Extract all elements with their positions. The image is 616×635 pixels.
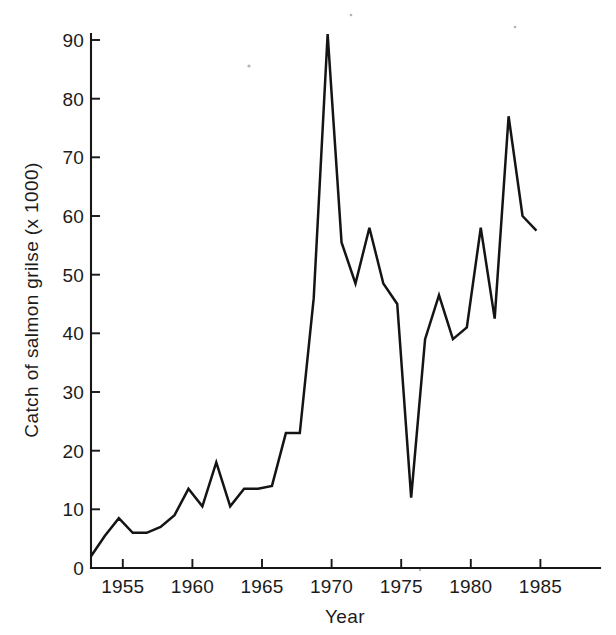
y-tick-label-20: 20 bbox=[62, 441, 84, 462]
x-axis-title: Year bbox=[325, 606, 365, 627]
y-axis: 0 10 20 30 40 50 60 70 80 90 Catch of sa… bbox=[21, 30, 100, 579]
y-tick-label-10: 10 bbox=[62, 499, 84, 520]
y-tick-label-90: 90 bbox=[62, 30, 84, 51]
chart-figure: 0 10 20 30 40 50 60 70 80 90 Catch of sa… bbox=[0, 0, 616, 635]
x-tick-label-1975: 1975 bbox=[380, 576, 423, 597]
y-tick-label-70: 70 bbox=[62, 147, 84, 168]
scan-speck bbox=[419, 569, 421, 571]
scan-speck bbox=[514, 26, 517, 29]
x-tick-label-1955: 1955 bbox=[101, 576, 144, 597]
x-tick-label-1960: 1960 bbox=[171, 576, 214, 597]
y-tick-label-30: 30 bbox=[62, 382, 84, 403]
scan-speck bbox=[350, 14, 353, 17]
y-tick-label-50: 50 bbox=[62, 265, 84, 286]
line-chart-svg: 0 10 20 30 40 50 60 70 80 90 Catch of sa… bbox=[0, 0, 616, 635]
data-series-line bbox=[91, 34, 536, 556]
y-axis-title: Catch of salmon grilse (x 1000) bbox=[21, 162, 42, 437]
y-tick-label-40: 40 bbox=[62, 323, 84, 344]
y-tick-label-60: 60 bbox=[62, 206, 84, 227]
x-axis: 1955 1960 1965 1970 1975 1980 1985 Year bbox=[91, 559, 600, 627]
x-tick-label-1965: 1965 bbox=[240, 576, 283, 597]
x-tick-label-1985: 1985 bbox=[519, 576, 562, 597]
y-tick-label-80: 80 bbox=[62, 89, 84, 110]
scan-speck bbox=[247, 64, 250, 67]
y-tick-label-0: 0 bbox=[73, 558, 84, 579]
x-tick-label-1970: 1970 bbox=[310, 576, 353, 597]
x-tick-label-1980: 1980 bbox=[449, 576, 492, 597]
